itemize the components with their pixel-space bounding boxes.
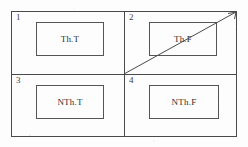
- quadrant-3-inner-box: NTh.T: [36, 85, 104, 119]
- quadrant-1-number: 1: [16, 12, 21, 23]
- quadrant-2: 2 Th.F: [124, 11, 237, 74]
- quadrant-2-number: 2: [129, 12, 134, 23]
- quadrant-4-number: 4: [129, 75, 134, 86]
- quadrant-1: 1 Th.T: [11, 11, 124, 74]
- quadrant-4: 4 NTh.F: [124, 74, 237, 137]
- quadrant-2-inner-box: Th.F: [149, 22, 217, 56]
- quadrant-3-label: NTh.T: [57, 97, 82, 108]
- quadrant-diagram: 1 Th.T 2 Th.F 3 NTh.T 4 NTh.F: [0, 0, 248, 147]
- quadrant-2-label: Th.F: [174, 34, 192, 45]
- quadrant-1-label: Th.T: [61, 34, 80, 45]
- quadrant-3-number: 3: [16, 75, 21, 86]
- quadrant-3: 3 NTh.T: [11, 74, 124, 137]
- quadrant-4-inner-box: NTh.F: [149, 85, 219, 119]
- quadrant-1-inner-box: Th.T: [36, 22, 104, 56]
- quadrant-4-label: NTh.F: [172, 97, 197, 108]
